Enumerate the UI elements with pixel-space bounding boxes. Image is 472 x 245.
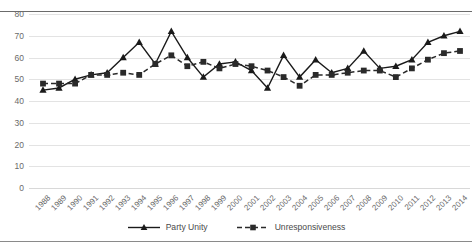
- data-point-1996: [168, 52, 174, 58]
- x-axis-label-2007: 2007: [338, 192, 356, 210]
- data-point-2011: [409, 65, 415, 71]
- y-axis-label-50: 50: [0, 75, 24, 84]
- data-point-2005: [312, 56, 319, 63]
- data-point-2005: [313, 72, 319, 78]
- y-axis-label-20: 20: [0, 141, 24, 150]
- x-axis-label-2001: 2001: [242, 192, 260, 210]
- x-axis-label-2006: 2006: [322, 192, 340, 210]
- data-point-2006: [329, 72, 335, 78]
- x-axis-label-2013: 2013: [434, 192, 452, 210]
- top-divider: [0, 11, 472, 12]
- x-axis-label-1996: 1996: [162, 192, 180, 210]
- data-point-1988: [40, 81, 46, 87]
- plot-area: 01020304050607080: [29, 14, 470, 188]
- legend-label: Party Unity: [166, 223, 208, 232]
- x-axis-label-2011: 2011: [403, 192, 421, 210]
- data-point-2001: [249, 63, 255, 69]
- series-line: [43, 31, 460, 90]
- data-point-1997: [184, 63, 190, 69]
- y-axis-label-60: 60: [0, 54, 24, 63]
- x-axis-label-2009: 2009: [370, 192, 388, 210]
- data-point-1996: [168, 28, 175, 35]
- data-point-1992: [104, 72, 110, 78]
- x-axis-label-1999: 1999: [210, 192, 228, 210]
- x-axis-label-1993: 1993: [114, 192, 132, 210]
- y-axis-label-80: 80: [0, 10, 24, 19]
- x-axis-label-1989: 1989: [49, 192, 67, 210]
- data-point-1989: [56, 81, 62, 87]
- y-axis-label-10: 10: [0, 162, 24, 171]
- data-point-1994: [136, 38, 143, 45]
- x-axis-label-2004: 2004: [290, 192, 308, 210]
- x-axis-label-2003: 2003: [274, 192, 292, 210]
- data-point-1999: [217, 65, 223, 71]
- x-axis-label-2014: 2014: [450, 192, 468, 210]
- data-point-2014: [457, 48, 463, 54]
- gridline-0: [29, 188, 470, 189]
- data-point-2002: [265, 68, 271, 74]
- legend-item-party-unity[interactable]: Party Unity: [127, 222, 208, 233]
- data-point-2003: [281, 74, 287, 80]
- data-point-1993: [120, 70, 126, 76]
- y-axis-label-0: 0: [0, 184, 24, 193]
- data-point-2007: [345, 70, 351, 76]
- legend-swatch-triangle-icon: [127, 222, 161, 233]
- data-point-1998: [200, 59, 206, 65]
- chart-legend: Party UnityUnresponsiveness: [0, 222, 472, 233]
- x-axis-label-1990: 1990: [65, 192, 83, 210]
- legend-label: Unresponsiveness: [275, 223, 346, 232]
- x-axis-label-1988: 1988: [33, 192, 51, 210]
- series-party-unity: [39, 28, 463, 93]
- data-point-1990: [72, 81, 78, 87]
- data-point-2013: [441, 50, 447, 56]
- y-axis-label-70: 70: [0, 32, 24, 41]
- x-axis-label-2008: 2008: [354, 192, 372, 210]
- data-point-2008: [360, 47, 367, 54]
- y-axis-label-30: 30: [0, 119, 24, 128]
- y-axis-label-40: 40: [0, 97, 24, 106]
- data-point-1995: [152, 61, 158, 67]
- x-axis-label-2002: 2002: [258, 192, 276, 210]
- data-point-2014: [456, 28, 463, 35]
- data-point-2009: [377, 68, 383, 74]
- x-axis-label-1998: 1998: [194, 192, 212, 210]
- data-point-2000: [233, 61, 239, 67]
- bottom-divider: [0, 241, 472, 242]
- x-axis-label-2000: 2000: [226, 192, 244, 210]
- x-axis-label-1997: 1997: [178, 192, 196, 210]
- x-axis-label-1995: 1995: [146, 192, 164, 210]
- data-point-2010: [393, 74, 399, 80]
- chart-container: 01020304050607080 1988198919901991199219…: [0, 0, 472, 245]
- x-axis-label-1994: 1994: [130, 192, 148, 210]
- series-layer: [29, 14, 470, 188]
- x-axis-label-2005: 2005: [306, 192, 324, 210]
- data-point-2003: [280, 52, 287, 59]
- x-axis-label-1992: 1992: [98, 192, 116, 210]
- data-point-1994: [136, 72, 142, 78]
- legend-item-unresponsiveness[interactable]: Unresponsiveness: [236, 222, 346, 233]
- data-point-2008: [361, 68, 367, 74]
- data-point-2012: [425, 57, 431, 63]
- x-axis-label-1991: 1991: [82, 192, 100, 210]
- x-axis-label-2012: 2012: [418, 192, 436, 210]
- data-point-2004: [297, 83, 303, 89]
- x-axis-label-2010: 2010: [386, 192, 404, 210]
- legend-swatch-square-icon: [236, 222, 270, 233]
- series-unresponsiveness: [40, 48, 463, 89]
- data-point-1991: [88, 72, 94, 78]
